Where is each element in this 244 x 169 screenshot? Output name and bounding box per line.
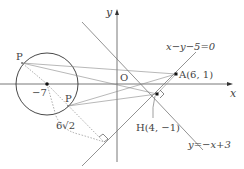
p-upper-label: P <box>16 51 23 62</box>
dotted-center-to-foot <box>47 84 104 142</box>
origin-label: O <box>120 72 128 83</box>
center-label: −7 <box>32 87 47 98</box>
x-axis-label: x <box>230 87 237 100</box>
point-h-label: H(4, −1) <box>136 122 180 133</box>
right-angle-mark-h <box>160 90 164 98</box>
distance-label: 6√2 <box>56 120 75 131</box>
p-lower-label: P <box>65 93 72 104</box>
center-point <box>45 82 49 86</box>
x-axis-arrow-icon <box>227 82 233 86</box>
point-p-upper <box>21 62 23 64</box>
point-h <box>156 93 159 96</box>
coordinate-diagram: y x O −7 P P A(6, 1) H(4, −1) x−y−5=0 y=… <box>0 0 244 169</box>
line1-label: x−y−5=0 <box>166 41 216 52</box>
point-p-lower <box>67 105 69 107</box>
point-a-label: A(6, 1) <box>178 69 213 80</box>
point-a <box>175 73 178 76</box>
y-axis-arrow-icon <box>115 9 119 15</box>
line2-label: y=−x+3 <box>187 139 231 150</box>
y-axis-label: y <box>105 6 113 19</box>
